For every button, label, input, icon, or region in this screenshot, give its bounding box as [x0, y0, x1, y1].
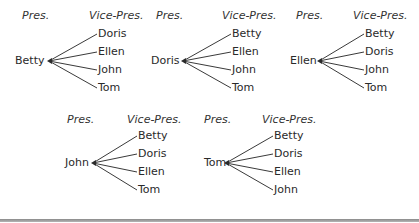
- vice-president-node: Tom: [138, 183, 160, 196]
- vice-president-node: Tom: [98, 81, 120, 94]
- vice-pres-header: Vice-Pres.: [222, 9, 277, 22]
- vice-president-node: Betty: [138, 129, 167, 142]
- vice-president-node: Doris: [98, 27, 127, 40]
- president-node: Betty: [15, 54, 44, 67]
- vice-president-node: Doris: [365, 45, 394, 58]
- vice-president-node: Ellen: [232, 45, 259, 58]
- vice-president-node: John: [232, 63, 256, 76]
- vice-pres-header: Vice-Pres.: [262, 113, 317, 126]
- pres-header: Pres.: [156, 9, 183, 22]
- president-node: John: [65, 156, 89, 169]
- vice-president-node: John: [365, 63, 389, 76]
- president-node: Ellen: [290, 54, 317, 67]
- vice-president-node: Ellen: [274, 165, 301, 178]
- vice-pres-header: Vice-Pres.: [89, 9, 144, 22]
- pres-header: Pres.: [22, 9, 49, 22]
- vice-president-node: Doris: [274, 147, 303, 160]
- tree-diagram: Pres. Vice-Pres. Betty Doris Ellen John …: [0, 0, 419, 223]
- vice-president-node: Betty: [365, 27, 394, 40]
- vice-president-node: Ellen: [138, 165, 165, 178]
- president-node: Doris: [151, 54, 180, 67]
- vice-president-node: John: [274, 183, 298, 196]
- vice-president-node: John: [98, 63, 122, 76]
- branch-lines: [0, 0, 419, 223]
- vice-pres-header: Vice-Pres.: [353, 9, 408, 22]
- president-node: Tom: [204, 156, 226, 169]
- vice-pres-header: Vice-Pres.: [127, 113, 182, 126]
- vice-president-node: Betty: [274, 129, 303, 142]
- vice-president-node: Ellen: [98, 45, 125, 58]
- vice-president-node: Doris: [138, 147, 167, 160]
- vice-president-node: Betty: [232, 27, 261, 40]
- vice-president-node: Tom: [365, 81, 387, 94]
- bottom-divider: [0, 219, 419, 222]
- pres-header: Pres.: [296, 9, 323, 22]
- pres-header: Pres.: [204, 113, 231, 126]
- vice-president-node: Tom: [232, 81, 254, 94]
- pres-header: Pres.: [67, 113, 94, 126]
